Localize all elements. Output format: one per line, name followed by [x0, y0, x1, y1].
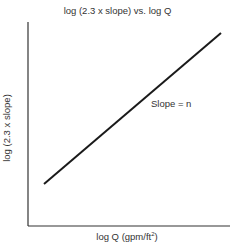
x-axis-label-close: ): [155, 231, 158, 242]
data-line: [44, 33, 221, 184]
y-axis-label: log (2.3 x slope): [1, 94, 12, 162]
x-axis-label-main: log Q (gpm/ft: [96, 231, 151, 242]
slope-annotation: Slope = n: [151, 98, 191, 109]
x-axis-label: log Q (gpm/ft2): [0, 231, 235, 242]
plot-area: [0, 0, 235, 247]
